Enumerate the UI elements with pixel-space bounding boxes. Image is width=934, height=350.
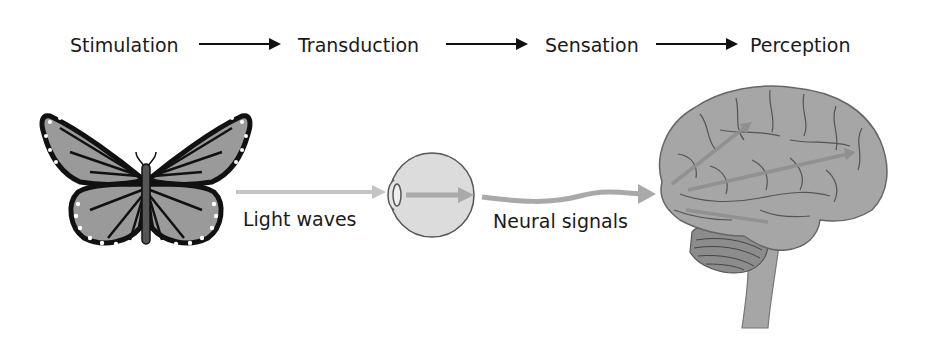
brain-icon xyxy=(640,70,920,350)
butterfly-icon xyxy=(20,100,260,250)
caption-neural-signals: Neural signals xyxy=(493,210,628,232)
neural-signals-arrow xyxy=(480,180,660,210)
flow-arrow-3 xyxy=(656,37,738,51)
flow-arrow-1 xyxy=(199,37,281,51)
light-waves-arrow xyxy=(236,184,386,200)
stage-perception: Perception xyxy=(750,34,850,56)
flow-arrow-2 xyxy=(446,37,528,51)
stage-transduction: Transduction xyxy=(298,34,419,56)
caption-light-waves: Light waves xyxy=(243,208,356,230)
eye-icon xyxy=(380,148,480,244)
stage-sensation: Sensation xyxy=(545,34,639,56)
stage-stimulation: Stimulation xyxy=(70,34,179,56)
